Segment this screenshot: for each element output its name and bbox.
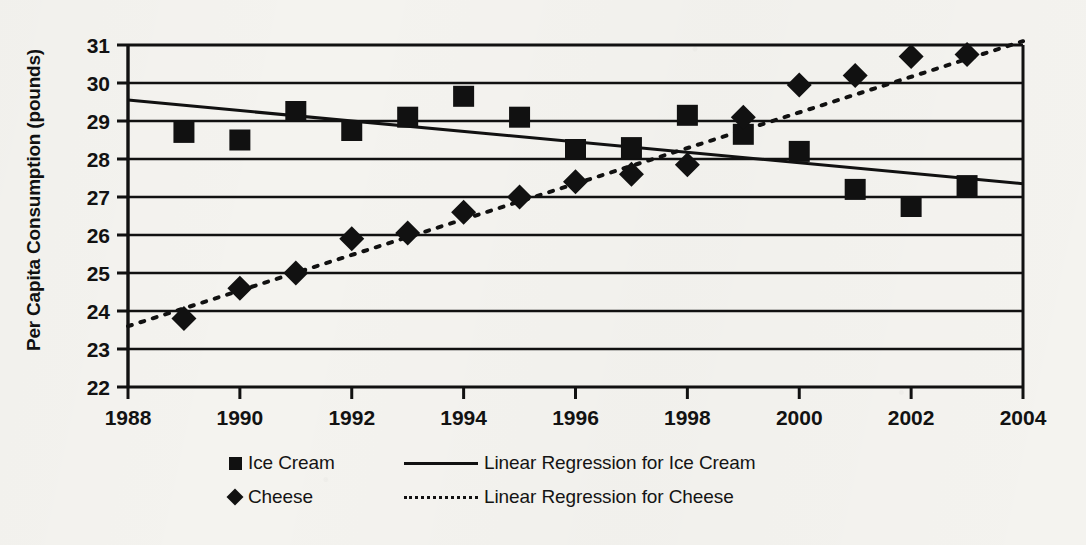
gridlines (128, 45, 1023, 387)
data-point-ice-cream (677, 105, 698, 126)
data-point-cheese (507, 185, 532, 210)
data-point-ice-cream (341, 120, 362, 141)
data-point-cheese (227, 276, 252, 301)
x-tick-label: 2004 (1000, 406, 1047, 429)
data-point-cheese (283, 261, 308, 286)
y-tick-labels: 22232425262728293031 (87, 34, 111, 399)
diamond-marker-icon (227, 489, 244, 506)
x-tick-label: 1998 (664, 406, 711, 429)
x-axis-ticks (128, 387, 1023, 399)
y-tick-label: 22 (87, 376, 110, 399)
data-point-cheese (339, 226, 364, 251)
y-tick-label: 28 (87, 148, 111, 171)
legend-label-regression-ice-cream: Linear Regression for Ice Cream (484, 452, 902, 474)
data-point-cheese (619, 162, 644, 187)
x-tick-label: 2000 (776, 406, 823, 429)
x-tick-label: 1994 (440, 406, 487, 429)
chart-svg: 22232425262728293031 1988199019921994199… (0, 0, 1086, 430)
data-point-ice-cream (845, 179, 866, 200)
data-point-cheese (395, 221, 420, 246)
data-point-ice-cream (789, 141, 810, 162)
legend-label-cheese: Cheese (248, 486, 398, 508)
legend-marker-cheese (222, 491, 248, 503)
legend-line-ice-cream (398, 462, 484, 465)
plot-area: 22232425262728293031 1988199019921994199… (0, 0, 1086, 430)
data-point-cheese (675, 152, 700, 177)
x-tick-label: 1988 (105, 406, 152, 429)
data-point-ice-cream (453, 86, 474, 107)
data-point-cheese (899, 44, 924, 69)
x-tick-label: 2002 (888, 406, 935, 429)
x-tick-label: 1996 (552, 406, 599, 429)
legend-line-cheese (398, 496, 484, 499)
data-point-ice-cream (229, 130, 250, 151)
x-tick-label: 1992 (328, 406, 375, 429)
chart-legend: Ice Cream Linear Regression for Ice Crea… (222, 446, 902, 514)
square-marker-icon (229, 457, 242, 470)
data-point-ice-cream (901, 196, 922, 217)
x-tick-labels: 198819901992199419961998200020022004 (105, 406, 1047, 429)
legend-label-regression-cheese: Linear Regression for Cheese (484, 486, 902, 508)
x-tick-label: 1990 (217, 406, 264, 429)
chart-page: Per Capita Consumption (pounds) 22232425… (0, 0, 1086, 545)
data-point-ice-cream (173, 122, 194, 143)
dotted-line-icon (404, 496, 478, 499)
y-tick-label: 30 (87, 72, 110, 95)
data-marker-group (171, 42, 979, 331)
y-tick-label: 24 (87, 300, 111, 323)
solid-line-icon (404, 462, 478, 465)
data-point-ice-cream (957, 175, 978, 196)
data-point-ice-cream (397, 107, 418, 128)
y-tick-label: 27 (87, 186, 110, 209)
data-point-cheese (787, 72, 812, 97)
data-point-ice-cream (565, 139, 586, 160)
data-point-cheese (563, 169, 588, 194)
y-tick-label: 25 (87, 262, 111, 285)
y-tick-label: 31 (87, 34, 111, 57)
legend-label-ice-cream: Ice Cream (248, 452, 398, 474)
legend-marker-ice-cream (222, 457, 248, 470)
data-point-ice-cream (509, 107, 530, 128)
y-tick-label: 29 (87, 110, 110, 133)
data-point-ice-cream (285, 101, 306, 122)
y-tick-label: 26 (87, 224, 110, 247)
data-point-ice-cream (621, 137, 642, 158)
y-tick-label: 23 (87, 338, 110, 361)
